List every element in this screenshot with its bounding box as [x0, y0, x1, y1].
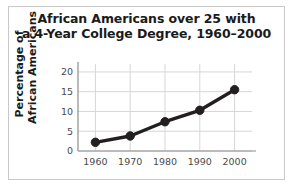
x-tick-label: 1960: [83, 156, 107, 167]
x-tick-label: 1990: [188, 156, 212, 167]
x-tick-label: 1970: [118, 156, 142, 167]
data-point-marker: [196, 106, 204, 114]
y-tick-label: 10: [61, 106, 73, 117]
axis-lines: [78, 62, 256, 151]
y-tick-labels: 05101520: [61, 66, 73, 156]
x-tick-label: 2000: [223, 156, 247, 167]
data-point-marker: [161, 118, 169, 126]
data-point-marker: [126, 132, 134, 140]
y-tick-label: 0: [67, 145, 73, 156]
y-tick-label: 15: [61, 86, 73, 97]
data-point-marker: [230, 86, 238, 94]
x-tick-label: 1980: [153, 156, 177, 167]
chart-figure: African Americans over 25 with a 4-Year …: [0, 0, 296, 190]
y-tick-label: 5: [67, 126, 73, 137]
plot-area: 05101520 19601970198019902000: [0, 0, 296, 190]
chart-canvas: 05101520 19601970198019902000: [0, 0, 296, 190]
data-point-marker: [91, 138, 99, 146]
y-tick-label: 20: [61, 66, 73, 77]
gridlines: [78, 64, 252, 151]
x-tick-labels: 19601970198019902000: [83, 156, 246, 167]
